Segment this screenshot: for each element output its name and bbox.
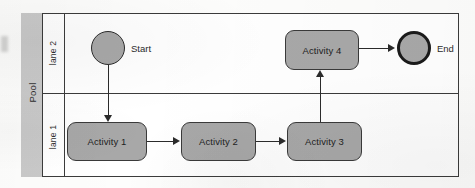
flow-activity-3-to-activity-4-arrowhead [316, 70, 324, 77]
activity-3-label: Activity 3 [305, 136, 344, 147]
activity-4-label: Activity 4 [302, 45, 341, 56]
flow-activity-1-to-activity-2-arrowhead [173, 137, 180, 145]
diagram-canvas: Pool lane 2 lane 1 Start Activity 4 End … [0, 0, 475, 188]
end-event-node[interactable] [397, 31, 431, 65]
lane-label-column-divider [64, 13, 65, 177]
pool-label: Pool [27, 64, 38, 122]
flow-activity-3-to-activity-4 [320, 77, 322, 122]
flow-activity-4-to-end-arrowhead [388, 44, 395, 52]
start-event-label: Start [131, 43, 151, 54]
flow-activity-2-to-activity-3-arrowhead [279, 137, 286, 145]
end-event-label: End [437, 43, 454, 54]
page-edge-artifact [1, 36, 8, 52]
activity-1-label: Activity 1 [87, 136, 126, 147]
activity-3-node[interactable]: Activity 3 [287, 122, 362, 161]
flow-activity-2-to-activity-3 [256, 141, 280, 143]
flow-start-to-activity-1 [108, 65, 110, 116]
flow-activity-1-to-activity-2 [147, 141, 174, 143]
start-event-node[interactable] [91, 31, 125, 65]
activity-2-label: Activity 2 [199, 136, 238, 147]
lane-label-lane-1: lane 1 [48, 111, 58, 163]
lane-label-lane-2: lane 2 [48, 27, 58, 79]
activity-2-node[interactable]: Activity 2 [181, 122, 256, 161]
flow-start-to-activity-1-arrowhead [104, 115, 112, 122]
lane-divider-line [43, 93, 459, 94]
activity-1-node[interactable]: Activity 1 [67, 122, 147, 161]
flow-activity-4-to-end [359, 48, 389, 50]
activity-4-node[interactable]: Activity 4 [285, 30, 359, 70]
